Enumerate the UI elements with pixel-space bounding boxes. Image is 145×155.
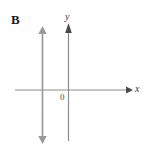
origin-label: 0 [60,93,65,102]
figure-panel-b: B y x 0 [0,0,145,155]
y-axis-label: y [65,12,69,22]
plotted-line-arrowhead-top [38,26,46,34]
y-axis-arrowhead [65,23,72,33]
x-axis-label: x [135,84,139,94]
panel-label: B [11,13,20,26]
x-axis-arrowhead [126,86,133,93]
plotted-line-arrowhead-bottom [38,136,46,144]
coordinate-plane-graphic [0,0,145,155]
